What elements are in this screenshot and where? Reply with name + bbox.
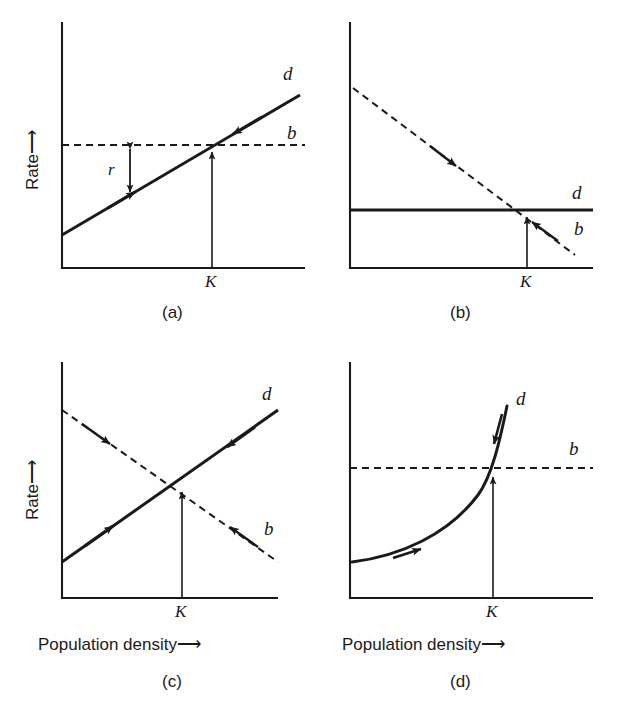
panel-a-death-rate-line <box>62 95 300 235</box>
panel-d-x-axis-arrow-icon: ⟶ <box>481 635 505 654</box>
panel-c-b-arrow-from-left <box>82 424 110 444</box>
panel-a-y-axis-label: Rate⟶ <box>22 130 43 190</box>
panel-c-y-axis-text: Rate <box>23 484 42 520</box>
panel-a-label-b: b <box>287 122 297 144</box>
panel-a-y-axis-arrow-icon: ⟶ <box>23 130 42 154</box>
panel-c-label-k: K <box>175 602 186 622</box>
panel-d-label-b: b <box>569 438 579 460</box>
panel-c-y-axis-arrow-icon: ⟶ <box>23 460 42 484</box>
panel-d-axes <box>350 362 593 598</box>
panel-a-label-k: K <box>205 272 216 292</box>
figure-container: d b r K (a) Rate⟶ d b K (b) d b K Rate⟶ … <box>0 0 620 717</box>
panel-c-label-d: d <box>262 383 272 405</box>
panel-c-axes <box>62 362 278 598</box>
panel-b-caption: (b) <box>450 303 471 323</box>
panel-c-y-axis-label: Rate⟶ <box>22 460 43 520</box>
panel-c-d-arrow-from-right <box>227 427 255 447</box>
panel-b-label-b: b <box>574 218 584 240</box>
panel-b <box>350 22 593 268</box>
panel-c-x-axis-text: Population density <box>38 635 177 654</box>
panel-b-arrow-toward-k-from-left <box>430 146 456 166</box>
panel-c-x-axis-label: Population density⟶ <box>38 634 201 655</box>
panel-b-label-k: K <box>520 272 531 292</box>
panel-d <box>350 362 593 598</box>
panel-a-y-axis-text: Rate <box>23 154 42 190</box>
panel-a-label-r: r <box>108 160 115 180</box>
panel-d-x-axis-label: Population density⟶ <box>342 634 505 655</box>
panel-d-x-axis-text: Population density <box>342 635 481 654</box>
panel-d-caption: (d) <box>450 672 471 692</box>
panel-c-caption: (c) <box>162 672 182 692</box>
panel-a-arrow-toward-k-from-left <box>108 192 135 208</box>
panel-d-label-k: K <box>486 602 497 622</box>
panel-c <box>62 362 278 598</box>
panel-a <box>62 22 305 268</box>
panel-c-d-arrow-from-left <box>85 526 113 546</box>
panel-d-label-d: d <box>516 388 526 410</box>
panel-c-b-arrow-from-right <box>230 527 258 547</box>
panel-c-label-b: b <box>264 518 274 540</box>
panel-d-death-rate-curve <box>352 406 507 562</box>
panel-a-caption: (a) <box>162 303 183 323</box>
panel-b-arrow-toward-k-from-right <box>532 222 558 241</box>
panel-c-x-axis-arrow-icon: ⟶ <box>177 635 201 654</box>
panel-a-label-d: d <box>283 63 293 85</box>
panel-a-arrow-toward-k-from-right <box>233 117 262 134</box>
panel-b-label-d: d <box>572 182 582 204</box>
panel-b-axes <box>350 22 593 268</box>
population-rate-diagram-svg <box>0 0 620 717</box>
